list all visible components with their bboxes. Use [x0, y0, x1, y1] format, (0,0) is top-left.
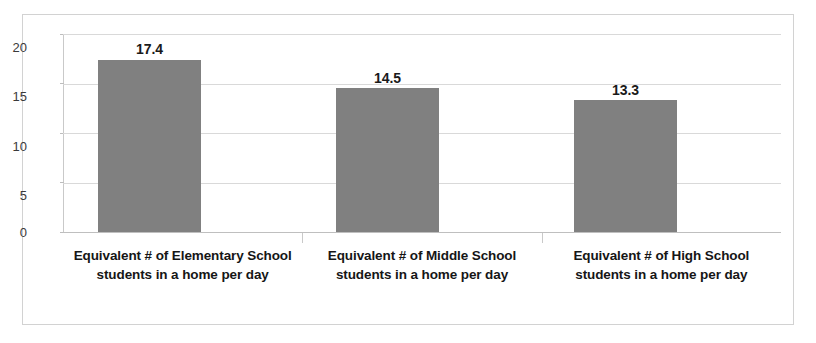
- bar-value-elementary: 17.4: [98, 42, 201, 56]
- category-label-middle: Equivalent # of Middle School students i…: [302, 246, 541, 284]
- y-axis-tick-label-20: 20: [0, 41, 27, 54]
- y-axis-tick-label-0: 0: [0, 226, 27, 239]
- category-cell-middle: Equivalent # of Middle School students i…: [302, 233, 541, 323]
- bar-elementary[interactable]: [98, 60, 201, 232]
- category-cell-high: Equivalent # of High School students in …: [542, 233, 781, 323]
- chart-frame: 20 15 10 5 0 17.4 14.5 13.3 Equivalent #…: [22, 14, 794, 325]
- y-axis-tick-label-10: 10: [0, 140, 27, 153]
- gridline-20: [63, 34, 781, 35]
- category-label-elementary: Equivalent # of Elementary School studen…: [63, 246, 302, 284]
- y-axis-tick-label-5: 5: [0, 189, 27, 202]
- category-axis: Equivalent # of Elementary School studen…: [63, 233, 781, 323]
- category-cell-elementary: Equivalent # of Elementary School studen…: [63, 233, 302, 323]
- bar-value-middle: 14.5: [336, 71, 439, 85]
- y-axis-tick-label-15: 15: [0, 90, 27, 103]
- category-label-high: Equivalent # of High School students in …: [542, 246, 781, 284]
- bar-value-high: 13.3: [574, 83, 677, 97]
- plot-area: 17.4 14.5 13.3: [63, 34, 781, 232]
- bar-high[interactable]: [574, 100, 677, 232]
- bar-middle[interactable]: [336, 88, 439, 232]
